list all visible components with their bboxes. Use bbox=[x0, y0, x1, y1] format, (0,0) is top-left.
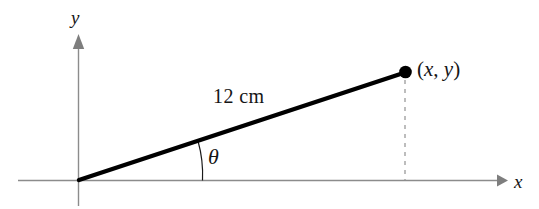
figure-canvas bbox=[0, 0, 539, 209]
segment-length-label: 12 cm bbox=[213, 86, 264, 106]
geometry-figure: y x 12 cm θ (x, y) bbox=[0, 0, 539, 209]
y-axis-label: y bbox=[71, 8, 79, 27]
theta-angle-label: θ bbox=[208, 146, 219, 168]
point-coordinates-label: (x, y) bbox=[417, 59, 460, 80]
y-axis-arrowhead bbox=[73, 34, 84, 49]
x-axis-label: x bbox=[514, 172, 522, 191]
point-label-y: y bbox=[444, 57, 453, 81]
point-label-open-paren: ( bbox=[417, 57, 424, 81]
angle-arc bbox=[198, 141, 203, 181]
point-label-comma: , bbox=[433, 57, 444, 81]
endpoint-dot bbox=[399, 66, 412, 79]
point-label-x: x bbox=[424, 57, 433, 81]
point-label-close-paren: ) bbox=[453, 57, 460, 81]
x-axis-arrowhead bbox=[497, 175, 508, 187]
